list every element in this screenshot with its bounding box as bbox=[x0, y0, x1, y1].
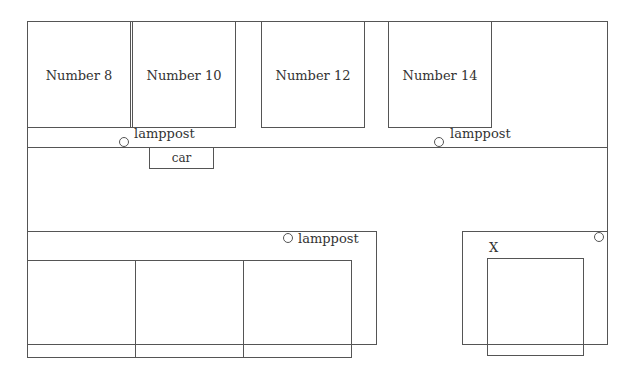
house-label: Number 8 bbox=[28, 67, 130, 82]
building-x bbox=[487, 258, 584, 356]
house-number-14: Number 14 bbox=[388, 21, 492, 128]
lamppost-label: lamppost bbox=[450, 126, 511, 141]
marker-x-label: X bbox=[489, 240, 498, 255]
bottom-house-3 bbox=[243, 260, 352, 358]
house-number-10: Number 10 bbox=[132, 21, 236, 128]
lamppost-icon bbox=[119, 137, 129, 147]
house-label: Number 14 bbox=[389, 67, 491, 82]
house-number-12: Number 12 bbox=[261, 21, 365, 128]
lamppost-icon bbox=[594, 232, 604, 242]
bottom-house-1 bbox=[27, 260, 136, 358]
house-label: Number 10 bbox=[133, 67, 235, 82]
car: car bbox=[149, 147, 214, 169]
lamppost-label: lamppost bbox=[298, 231, 359, 246]
lamppost-icon bbox=[434, 137, 444, 147]
pavement-top-line bbox=[27, 147, 607, 148]
bottom-house-2 bbox=[135, 260, 244, 358]
house-number-8: Number 8 bbox=[27, 21, 131, 128]
car-label: car bbox=[150, 151, 213, 165]
lamppost-label: lamppost bbox=[134, 126, 195, 141]
lamppost-icon bbox=[283, 233, 293, 243]
house-label: Number 12 bbox=[262, 67, 364, 82]
